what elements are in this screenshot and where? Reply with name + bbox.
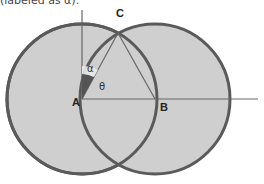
label-alpha: α bbox=[87, 63, 94, 74]
label-theta: θ bbox=[99, 81, 105, 92]
label-b: B bbox=[160, 101, 168, 113]
label-c: C bbox=[116, 7, 124, 19]
geometry-diagram: A B C α θ bbox=[0, 0, 264, 184]
label-a: A bbox=[72, 96, 80, 108]
